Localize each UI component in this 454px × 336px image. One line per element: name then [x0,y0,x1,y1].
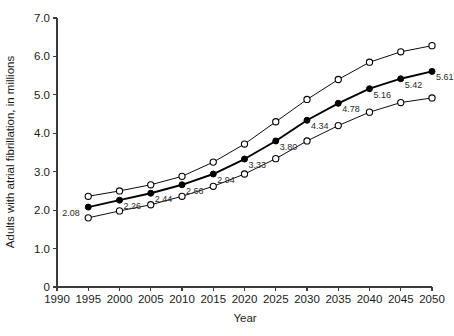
data-point-lower-bound [273,156,279,162]
x-tick-label: 2030 [294,293,320,305]
data-point-upper-bound [85,193,91,199]
x-tick-label: 2045 [388,293,414,305]
x-tick-label: 2000 [107,293,133,305]
data-point-upper-bound [398,49,404,55]
data-point-label: 4.34 [311,121,329,131]
data-point-projection [117,197,123,203]
data-point-projection [367,86,373,92]
data-point-projection [398,76,404,82]
data-point-lower-bound [85,215,91,221]
point-labels-layer: 2.082.262.442.662.943.333.804.344.785.16… [62,72,453,218]
data-point-lower-bound [398,99,404,105]
data-point-upper-bound [304,96,310,102]
data-point-label: 2.94 [217,175,235,185]
data-point-lower-bound [241,171,247,177]
data-point-projection [210,171,216,177]
chart-canvas: 01.02.03.04.05.06.07.0 19901995200020052… [0,0,454,336]
y-axis: 01.02.03.04.05.06.07.0 [34,12,57,293]
y-tick-label: 0 [44,281,50,293]
series-line-upper-bound [88,46,432,197]
data-point-upper-bound [116,188,122,194]
y-tick-label: 1.0 [34,243,50,255]
data-point-upper-bound [148,182,154,188]
x-tick-label: 1995 [75,293,101,305]
data-point-upper-bound [429,43,435,49]
x-tick-label: 2035 [325,293,351,305]
data-point-lower-bound [179,193,185,199]
data-point-projection [429,68,435,74]
x-axis-title: Year [233,312,256,324]
data-point-lower-bound [116,208,122,214]
data-point-upper-bound [210,159,216,165]
data-point-upper-bound [335,76,341,82]
data-point-projection [273,138,279,144]
y-tick-label: 4.0 [34,127,50,139]
series-line-lower-bound [88,98,432,218]
data-point-label: 5.42 [405,80,423,90]
data-point-label: 3.80 [280,142,298,152]
data-point-upper-bound [241,141,247,147]
y-tick-label: 6.0 [34,50,50,62]
x-tick-label: 2015 [200,293,226,305]
x-tick-label: 2040 [357,293,383,305]
y-tick-label: 3.0 [34,166,50,178]
y-axis-title: Adults with atrial fibrillation, in mill… [4,56,16,249]
data-point-projection [179,182,185,188]
x-tick-label: 2010 [169,293,195,305]
data-point-upper-bound [366,59,372,65]
data-point-lower-bound [335,123,341,129]
data-point-upper-bound [179,173,185,179]
x-tick-label: 2025 [263,293,289,305]
x-axis: 1990199520002005201020152020202520302035… [44,287,445,305]
data-point-projection [335,100,341,106]
data-point-label: 5.61 [436,72,454,82]
data-point-label: 2.26 [124,201,142,211]
data-point-label: 4.78 [342,104,360,114]
data-point-lower-bound [210,183,216,189]
x-tick-label: 2020 [232,293,258,305]
data-point-lower-bound [148,202,154,208]
data-point-upper-bound [273,119,279,125]
x-tick-label: 1990 [44,293,70,305]
series-layer [85,43,435,221]
x-tick-label: 2005 [138,293,164,305]
data-point-lower-bound [429,95,435,101]
data-point-label: 3.33 [249,160,267,170]
data-point-projection [304,117,310,123]
y-tick-label: 2.0 [34,204,50,216]
data-point-label: 5.16 [374,90,392,100]
data-point-label: 2.44 [155,194,173,204]
data-point-lower-bound [366,109,372,115]
data-point-lower-bound [304,138,310,144]
data-point-label: 2.08 [62,208,80,218]
data-point-projection [148,190,154,196]
data-point-projection [242,156,248,162]
y-tick-label: 5.0 [34,89,50,101]
data-point-projection [85,204,91,210]
x-tick-label: 2050 [419,293,445,305]
data-point-label: 2.66 [186,186,204,196]
atrial-fibrillation-projection-chart: 01.02.03.04.05.06.07.0 19901995200020052… [0,0,454,336]
y-tick-label: 7.0 [34,12,50,24]
